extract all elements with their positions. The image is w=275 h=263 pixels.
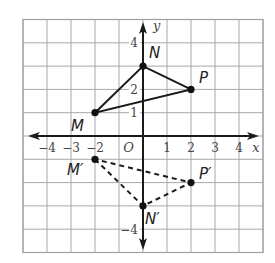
vertex-point [139,202,146,209]
vertex-label: N [149,44,160,62]
x-tick-label: 2 [187,141,195,155]
origin-label: O [123,140,134,155]
vertex-label: M [71,117,84,135]
vertex-point [139,63,146,70]
x-axis-label: x [252,140,260,155]
x-tick-label: −3 [62,141,80,155]
y-tick-label: 2 [130,83,138,97]
coordinate-plane: −4−3−21234421−4Oxy MNPM′N′P′ [0,0,275,263]
vertex-label: P [199,69,209,87]
vertex-label: M′ [67,161,84,179]
vertex-point [187,86,194,93]
y-tick-label: −4 [120,223,138,237]
vertex-point [91,109,98,116]
axes [28,22,259,250]
y-tick-label: 4 [130,36,138,50]
y-axis-label: y [152,18,161,33]
vertex-label: P′ [199,165,212,183]
y-tick-label: 1 [130,106,138,120]
x-tick-label: 1 [163,141,171,155]
x-tick-label: −4 [38,141,56,155]
vertex-point [187,179,194,186]
vertex-label: N′ [145,210,160,228]
vertex-point [91,156,98,163]
x-tick-label: 4 [235,141,243,155]
x-tick-label: −2 [86,141,104,155]
x-tick-label: 3 [211,141,219,155]
